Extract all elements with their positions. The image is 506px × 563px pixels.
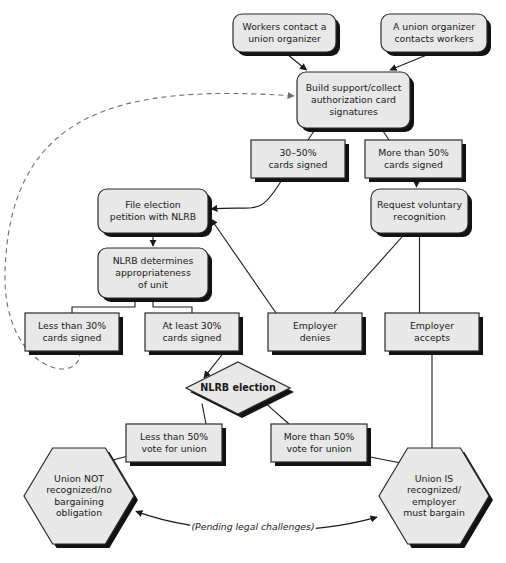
edge-n6-to-n11 [334,233,406,313]
node-label: NLRB election [200,382,276,393]
edge-n13-to-n14 [202,404,206,424]
node-label: At least 30%cards signed [162,320,221,343]
edge-n13-to-n15 [266,404,289,424]
node-label: More than 50%cards signed [378,147,449,170]
edge-n4-to-n7 [211,178,283,209]
edge-labels-layer: (Pending legal challenges) [190,521,316,534]
node-union-not-recognized-no-bargaining-obligat[interactable]: Union NOTrecognized/nobargainingobligati… [24,448,138,548]
node-request-voluntary-recognition[interactable]: Request voluntaryrecognition [371,189,472,237]
node-more-than-50-cards-signed[interactable]: More than 50%cards signed [365,140,466,182]
node-label: A union organizercontacts workers [393,21,475,44]
edge-n11-to-n7 [211,219,276,313]
node-less-than-50-vote-for-union[interactable]: Less than 50%vote for union [126,424,226,466]
node-nlrb-determines-appropriateness-of-unit[interactable]: NLRB determinesappropriatenessof unit [98,248,212,302]
node-more-than-50-vote-for-union[interactable]: More than 50%vote for union [271,424,371,466]
node-a-union-organizer-contacts-workers[interactable]: A union organizercontacts workers [381,14,491,56]
nodes-layer: Workers contact aunion organizerA union … [24,14,493,548]
node-employer-denies[interactable]: Employerdenies [268,313,366,355]
node-employer-accepts[interactable]: Employeraccepts [385,313,483,355]
node-label: Employeraccepts [410,320,454,343]
node-label: Less than 50%vote for union [140,431,208,454]
node-nlrb-election[interactable]: NLRB election [186,362,294,418]
node-at-least-30-cards-signed[interactable]: At least 30%cards signed [145,313,243,355]
node-file-election-petition-with-nlrb[interactable]: File electionpetition with NLRB [98,189,212,237]
edge-label-pending-legal-challenges: (Pending legal challenges) [191,521,314,532]
node-label: Less than 30%cards signed [38,320,106,343]
node-less-than-30-cards-signed[interactable]: Less than 30%cards signed [25,313,123,355]
node-label: More than 50%vote for union [284,431,355,454]
node-union-is-recognized-employer-must-bargain[interactable]: Union ISrecognized/employermust bargain [379,448,493,548]
node-30-50-cards-signed[interactable]: 30–50%cards signed [251,140,349,182]
node-build-support-collect-authorization-card-s[interactable]: Build support/collectauthorization cards… [297,72,414,132]
node-workers-contact-a-union-organizer[interactable]: Workers contact aunion organizer [233,14,340,56]
union-election-flowchart: Workers contact aunion organizerA union … [0,0,506,563]
node-label: Workers contact aunion organizer [243,21,327,44]
flowchart-canvas: Workers contact aunion organizerA union … [0,0,506,563]
